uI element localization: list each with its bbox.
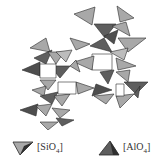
- alo4-tetrahedron: [20, 104, 38, 116]
- sio4-tetrahedron: [30, 38, 50, 52]
- alo4-tetrahedron: [56, 118, 74, 126]
- sio4-tetrahedron: [52, 108, 70, 118]
- sio4-tetrahedron: [36, 104, 52, 116]
- ring-window: [40, 64, 56, 78]
- sio4-tetrahedron: [54, 94, 70, 106]
- sio4-tetrahedron: [40, 122, 58, 130]
- legend: [SiO4] [AlO4]: [0, 138, 163, 158]
- alo4-tetrahedron-icon: [98, 140, 120, 156]
- sio4-tetrahedron: [74, 7, 95, 25]
- sio4-tetrahedron: [70, 38, 90, 50]
- sio4-tetrahedron: [110, 48, 128, 60]
- sio4-tetrahedron: [116, 70, 130, 82]
- legend-item-alo4: [AlO4]: [98, 138, 150, 158]
- sio4-tetrahedron: [94, 94, 114, 104]
- legend-label-sio4: [SiO4]: [37, 141, 63, 155]
- sio4-tetrahedron: [116, 58, 136, 70]
- alo4-tetrahedron: [22, 62, 40, 76]
- tetrahedral-framework-diagram: [0, 0, 163, 130]
- sio4-tetrahedron: [92, 54, 112, 70]
- sio4-tetrahedron: [76, 82, 94, 94]
- legend-item-sio4: [SiO4]: [12, 138, 63, 158]
- sio4-tetrahedron: [32, 86, 46, 96]
- sio4-tetrahedron-icon: [12, 140, 34, 156]
- ring-window: [58, 82, 76, 94]
- ring-window: [116, 84, 124, 96]
- alo4-tetrahedron: [100, 70, 114, 84]
- legend-label-alo4: [AlO4]: [123, 141, 150, 155]
- sio4-tetrahedron: [117, 6, 134, 22]
